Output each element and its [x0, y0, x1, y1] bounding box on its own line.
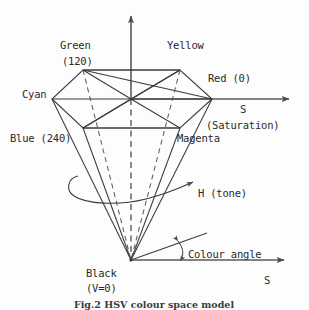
label-green-hue: (120) — [62, 55, 93, 67]
label-cyan: Cyan — [22, 88, 47, 100]
label-s-axis-bottom: S — [264, 274, 270, 286]
hexagon-spokes — [52, 70, 212, 128]
label-blue: Blue (240) — [10, 132, 71, 144]
label-black-value: (V=0) — [86, 282, 117, 294]
label-saturation: (Saturation) — [206, 119, 279, 131]
colour-angle-arc — [178, 241, 183, 261]
label-magenta: Magenta — [177, 132, 220, 144]
label-black: Black — [86, 267, 117, 279]
label-yellow: Yellow — [167, 39, 204, 51]
label-green: Green — [60, 39, 91, 51]
spoke-center-magenta — [131, 99, 180, 128]
cone-edges-visible — [52, 99, 212, 260]
label-colour-angle: Colour angle — [188, 248, 261, 260]
chord-green-red — [83, 70, 212, 99]
apex-black-point — [129, 258, 132, 261]
label-hue-tone: H (tone) — [198, 187, 247, 199]
spoke-center-green — [83, 70, 131, 99]
edge-magenta-to-apex — [131, 128, 180, 260]
edge-blue-to-apex — [83, 128, 131, 260]
label-s-axis-top: S — [240, 103, 246, 115]
figure-caption: Fig.2 HSV colour space model — [74, 299, 234, 310]
label-red: Red (0) — [208, 72, 251, 84]
